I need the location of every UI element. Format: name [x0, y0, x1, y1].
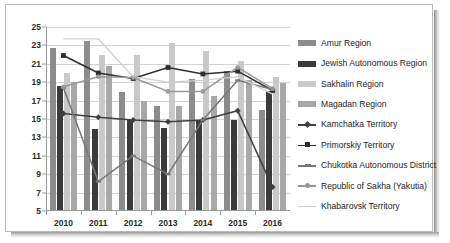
marker-kamchatka-territory: [60, 111, 66, 117]
marker-chukotka-autonomous-district: [200, 119, 205, 121]
x-tick-mark: [151, 211, 152, 215]
y-tick-mark: [42, 155, 46, 156]
marker-chukotka-autonomous-district: [165, 173, 170, 175]
y-tick-label: 23: [32, 40, 41, 50]
marker-primorskiy-territory: [166, 65, 171, 70]
legend-line-icon: [298, 141, 316, 150]
y-tick-label: 19: [32, 77, 41, 87]
legend-label: Magadan Region: [321, 100, 386, 109]
y-tick-mark: [42, 100, 46, 101]
x-tick-label: 2014: [193, 218, 212, 228]
x-tick-mark: [185, 211, 186, 215]
y-tick-label: 17: [32, 96, 41, 106]
y-tick-label: 13: [32, 132, 41, 142]
legend-line-icon: [298, 161, 316, 170]
y-tick-mark: [42, 174, 46, 175]
x-tick-label: 2012: [124, 218, 143, 228]
y-axis: [46, 27, 47, 211]
marker-kamchatka-territory: [95, 114, 101, 120]
legend-label: Sakhalin Region: [321, 80, 384, 89]
legend-item-jewish-autonomous-region[interactable]: Jewish Autonomous Region: [298, 53, 438, 73]
line-chukotka-autonomous-district: [63, 80, 272, 181]
y-tick-mark: [42, 63, 46, 64]
plot-area: 5791113151719212325201020112012201320142…: [46, 27, 290, 211]
y-tick-label: 15: [32, 114, 41, 124]
legend-label: Amur Region: [321, 39, 371, 48]
legend-line-icon: [298, 181, 316, 190]
y-tick-label: 11: [32, 151, 41, 161]
marker-kamchatka-territory: [270, 184, 276, 190]
marker-kamchatka-territory: [235, 108, 241, 114]
y-tick-mark: [42, 119, 46, 120]
legend-swatch-icon: [298, 40, 316, 46]
marker-republic-of-sakha-yakutia: [235, 65, 240, 70]
x-tick-mark: [81, 211, 82, 215]
x-tick-label: 2013: [159, 218, 178, 228]
legend-swatch-icon: [298, 61, 316, 67]
chart-screenshot: 5791113151719212325201020112012201320142…: [0, 0, 450, 243]
marker-republic-of-sakha-yakutia: [201, 89, 206, 94]
legend-swatch-icon: [298, 101, 316, 107]
x-axis: [46, 210, 290, 211]
marker-chukotka-autonomous-district: [235, 79, 240, 81]
marker-republic-of-sakha-yakutia: [61, 85, 66, 90]
plot-canvas: [46, 27, 290, 211]
legend-label: Kamchatka Territory: [321, 120, 397, 129]
chart-panel: 5791113151719212325201020112012201320142…: [5, 4, 433, 232]
marker-primorskiy-territory: [61, 53, 66, 58]
x-tick-label: 2011: [89, 218, 107, 228]
marker-republic-of-sakha-yakutia: [96, 74, 101, 79]
marker-republic-of-sakha-yakutia: [270, 86, 275, 91]
marker-republic-of-sakha-yakutia: [166, 89, 171, 94]
chart-legend: Amur RegionJewish Autonomous RegionSakha…: [298, 33, 438, 217]
x-tick-label: 2010: [54, 218, 73, 228]
x-tick-mark: [255, 211, 256, 215]
legend-label: Chukotka Autonomous District: [321, 161, 436, 170]
y-tick-mark: [42, 137, 46, 138]
x-tick-label: 2016: [263, 218, 282, 228]
x-tick-mark: [220, 211, 221, 215]
legend-line-icon: [298, 120, 316, 129]
legend-item-sakhalin-region[interactable]: Sakhalin Region: [298, 74, 438, 94]
line-primorskiy-territory: [63, 56, 272, 91]
y-tick-mark: [42, 45, 46, 46]
y-tick-mark: [42, 27, 46, 28]
legend-label: Jewish Autonomous Region: [321, 59, 427, 68]
legend-item-magadan-region[interactable]: Magadan Region: [298, 94, 438, 114]
legend-label: Republic of Sakha (Yakutia): [321, 182, 427, 191]
marker-kamchatka-territory: [165, 119, 171, 125]
panel-shadow-bottom: [11, 232, 439, 238]
x-tick-label: 2015: [228, 218, 247, 228]
y-tick-label: 25: [32, 22, 41, 32]
legend-item-kamchatka-territory[interactable]: Kamchatka Territory: [298, 115, 438, 135]
marker-kamchatka-territory: [130, 117, 136, 123]
legend-swatch-icon: [298, 81, 316, 87]
legend-item-republic-of-sakha-yakutia[interactable]: Republic of Sakha (Yakutia): [298, 176, 438, 196]
y-tick-mark: [42, 192, 46, 193]
x-tick-mark: [116, 211, 117, 215]
y-tick-label: 5: [36, 206, 41, 216]
y-tick-label: 7: [36, 188, 41, 198]
legend-item-amur-region[interactable]: Amur Region: [298, 33, 438, 53]
y-tick-mark: [42, 82, 46, 83]
legend-label: Primorskiy Territory: [321, 141, 394, 150]
legend-item-chukotka-autonomous-district[interactable]: Chukotka Autonomous District: [298, 155, 438, 175]
y-tick-label: 21: [32, 59, 41, 69]
legend-item-primorskiy-territory[interactable]: Primorskiy Territory: [298, 135, 438, 155]
legend-line-icon: [298, 202, 316, 211]
marker-chukotka-autonomous-district: [131, 155, 136, 157]
marker-chukotka-autonomous-district: [96, 180, 101, 182]
line-series-overlay: [46, 27, 290, 211]
legend-item-khabarovsk-territory[interactable]: Khabarovsk Territory: [298, 196, 438, 216]
y-tick-label: 9: [36, 169, 41, 179]
legend-label: Khabarovsk Territory: [321, 202, 400, 211]
marker-primorskiy-territory: [200, 72, 205, 77]
x-tick-mark: [46, 211, 47, 215]
